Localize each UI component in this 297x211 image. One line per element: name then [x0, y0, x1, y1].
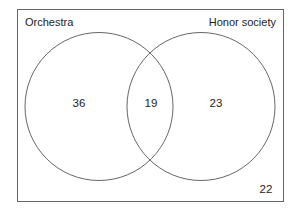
orchestra-only-count: 36 — [73, 97, 86, 109]
orchestra-label: Orchestra — [25, 16, 74, 28]
honor-society-only-count: 23 — [210, 97, 223, 109]
venn-diagram: Orchestra Honor society 36 19 23 22 — [0, 0, 297, 211]
honor-society-label: Honor society — [209, 16, 277, 28]
intersection-count: 19 — [145, 97, 158, 109]
outside-count: 22 — [260, 183, 273, 195]
